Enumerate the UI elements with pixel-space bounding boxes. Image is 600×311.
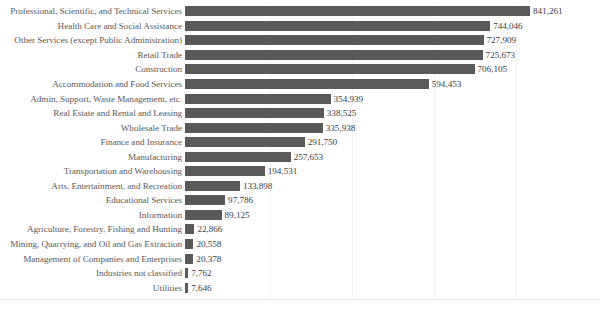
bar-row: Manufacturing257,653 <box>0 149 600 164</box>
bar <box>185 123 323 133</box>
bar <box>185 108 324 118</box>
bar-row: Other Services (except Public Administra… <box>0 33 600 48</box>
bar <box>185 195 225 205</box>
category-label: Mining, Quarrying, and Oil and Gas Extra… <box>0 239 185 249</box>
bar-container: 338,525 <box>185 106 600 121</box>
value-label: 97,786 <box>225 195 253 205</box>
bar-row: Utilities7,646 <box>0 280 600 295</box>
bar-container: 335,938 <box>185 120 600 135</box>
bar <box>185 239 193 249</box>
value-label: 7,646 <box>188 283 211 293</box>
bar-row: Management of Companies and Enterprises2… <box>0 251 600 266</box>
value-label: 257,653 <box>291 152 324 162</box>
bar <box>185 64 475 74</box>
category-label: Industries not classified <box>0 268 185 278</box>
bar <box>185 94 331 104</box>
value-label: 20,558 <box>193 239 221 249</box>
value-label: 727,909 <box>484 35 517 45</box>
category-label: Accommodation and Food Services <box>0 79 185 89</box>
value-label: 22,866 <box>194 224 222 234</box>
bar-row: Accommodation and Food Services594,453 <box>0 77 600 92</box>
bar <box>185 254 193 264</box>
bar-container: 725,673 <box>185 48 600 63</box>
value-label: 133,898 <box>240 181 273 191</box>
value-label: 354,939 <box>331 94 364 104</box>
bar-row: Health Care and Social Assistance744,046 <box>0 19 600 34</box>
bar-container: 841,261 <box>185 4 600 19</box>
bar <box>185 210 222 220</box>
category-label: Management of Companies and Enterprises <box>0 254 185 264</box>
bar-row: Arts, Entertainment, and Recreation133,8… <box>0 179 600 194</box>
bar-container: 727,909 <box>185 33 600 48</box>
category-label: Professional, Scientific, and Technical … <box>0 6 185 16</box>
bar-rows: Professional, Scientific, and Technical … <box>0 4 600 295</box>
category-label: Information <box>0 210 185 220</box>
bar-row: Mining, Quarrying, and Oil and Gas Extra… <box>0 237 600 252</box>
bar-container: 7,762 <box>185 266 600 281</box>
bar-container: 194,531 <box>185 164 600 179</box>
category-label: Admin, Support, Waste Management, etc. <box>0 94 185 104</box>
category-label: Manufacturing <box>0 152 185 162</box>
bar-container: 291,750 <box>185 135 600 150</box>
category-label: Utilities <box>0 283 185 293</box>
bar-row: Industries not classified7,762 <box>0 266 600 281</box>
value-label: 725,673 <box>483 50 516 60</box>
bar-container: 20,378 <box>185 251 600 266</box>
value-label: 89,125 <box>222 210 250 220</box>
bar-container: 706,105 <box>185 62 600 77</box>
bar <box>185 181 240 191</box>
value-label: 706,105 <box>475 64 508 74</box>
bar <box>185 50 483 60</box>
value-label: 7,762 <box>188 268 211 278</box>
category-label: Arts, Entertainment, and Recreation <box>0 181 185 191</box>
category-label: Construction <box>0 64 185 74</box>
bar-row: Transportation and Warehousing194,531 <box>0 164 600 179</box>
bar <box>185 152 291 162</box>
value-label: 744,046 <box>490 21 523 31</box>
category-label: Transportation and Warehousing <box>0 166 185 176</box>
value-label: 20,378 <box>193 254 221 264</box>
bar-container: 7,646 <box>185 280 600 295</box>
bar <box>185 6 530 16</box>
bar-container: 354,939 <box>185 91 600 106</box>
bar <box>185 35 484 45</box>
bar-row: Real Estate and Rental and Leasing338,52… <box>0 106 600 121</box>
bar-row: Information89,125 <box>0 208 600 223</box>
bar-row: Retail Trade725,673 <box>0 48 600 63</box>
value-label: 291,750 <box>305 137 338 147</box>
bar-chart: Professional, Scientific, and Technical … <box>0 0 600 311</box>
value-label: 841,261 <box>530 6 563 16</box>
category-label: Wholesale Trade <box>0 123 185 133</box>
bar <box>185 137 305 147</box>
category-label: Other Services (except Public Administra… <box>0 35 185 45</box>
bar-row: Construction706,105 <box>0 62 600 77</box>
bar <box>185 224 194 234</box>
value-label: 594,453 <box>429 79 462 89</box>
bar-row: Professional, Scientific, and Technical … <box>0 4 600 19</box>
chart-title-cutoff <box>0 0 600 3</box>
category-label: Real Estate and Rental and Leasing <box>0 108 185 118</box>
category-label: Retail Trade <box>0 50 185 60</box>
value-label: 194,531 <box>265 166 298 176</box>
value-label: 338,525 <box>324 108 357 118</box>
bar-container: 22,866 <box>185 222 600 237</box>
category-label: Educational Services <box>0 195 185 205</box>
category-label: Agriculture, Forestry, Fishing and Hunti… <box>0 224 185 234</box>
bar-container: 257,653 <box>185 149 600 164</box>
bar-row: Admin, Support, Waste Management, etc.35… <box>0 91 600 106</box>
plot-baseline <box>0 299 600 300</box>
bar <box>185 79 429 89</box>
bar-container: 594,453 <box>185 77 600 92</box>
category-label: Finance and Insurance <box>0 137 185 147</box>
bar <box>185 166 265 176</box>
plot-area: Professional, Scientific, and Technical … <box>0 4 600 303</box>
bar-container: 97,786 <box>185 193 600 208</box>
value-label: 335,938 <box>323 123 356 133</box>
bar <box>185 21 490 31</box>
bar-container: 20,558 <box>185 237 600 252</box>
bar-container: 133,898 <box>185 179 600 194</box>
bar-container: 89,125 <box>185 208 600 223</box>
category-label: Health Care and Social Assistance <box>0 21 185 31</box>
bar-row: Finance and Insurance291,750 <box>0 135 600 150</box>
bar-row: Agriculture, Forestry, Fishing and Hunti… <box>0 222 600 237</box>
